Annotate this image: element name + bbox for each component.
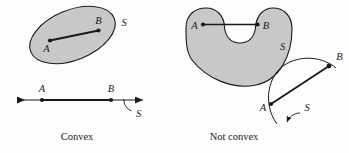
horseshoe-point-b-dot (255, 22, 259, 26)
convexity-figure: A B S A B S Convex A B (0, 0, 349, 153)
ellipse-point-b-dot (96, 28, 100, 32)
horseshoe-region-group: A B S (186, 8, 292, 86)
horseshoe-label-b: B (263, 20, 270, 31)
number-line-label-a: A (38, 83, 46, 94)
ellipse-region-shape (21, 0, 123, 75)
number-line-group: A B S (17, 83, 143, 119)
arc-label-a: A (259, 102, 267, 113)
horseshoe-label-a: A (190, 20, 198, 31)
ellipse-label-a: A (42, 43, 50, 54)
caption-convex: Convex (61, 131, 94, 142)
caption-not-convex: Not convex (210, 131, 259, 142)
horseshoe-point-a-dot (201, 22, 205, 26)
arc-label-s: S (304, 102, 310, 113)
number-line-point-b-dot (109, 98, 113, 102)
number-line-label-s: S (136, 108, 142, 119)
arc-point-a-dot (269, 102, 273, 106)
arc-s-leader (287, 113, 300, 122)
ellipse-label-s: S (121, 17, 127, 28)
number-line-point-a-dot (40, 98, 44, 102)
arc-chord-ab (271, 66, 329, 104)
arc-point-b-dot (327, 64, 332, 69)
horseshoe-region-shape (186, 8, 292, 86)
number-line-s-leader (124, 99, 132, 111)
ellipse-region-group: A B S (21, 0, 127, 75)
ellipse-label-b: B (95, 15, 102, 26)
horseshoe-label-s: S (280, 41, 286, 52)
arc-label-b: B (336, 51, 343, 62)
figure-canvas: A B S A B S Convex A B (0, 0, 349, 153)
number-line-label-b: B (108, 83, 115, 94)
